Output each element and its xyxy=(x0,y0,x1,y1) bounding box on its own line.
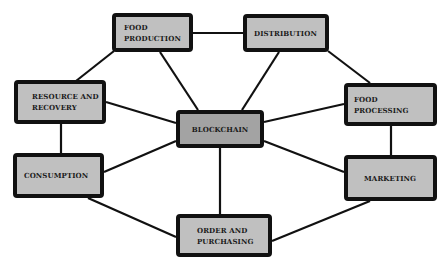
node-blockchain: BLOCKCHAIN xyxy=(176,110,264,148)
edge-food-production-to-blockchain xyxy=(160,52,198,110)
node-label: FOOD PRODUCTION xyxy=(124,22,181,44)
edge-distribution-to-blockchain xyxy=(242,52,279,110)
node-label: RESOURCE AND RECOVERY xyxy=(32,91,99,113)
node-consumption: CONSUMPTION xyxy=(13,153,104,198)
node-label: FOOD PROCESSING xyxy=(354,94,433,116)
blockchain-food-supply-diagram: FOOD PRODUCTIONDISTRIBUTIONRESOURCE AND … xyxy=(0,0,447,269)
edge-consumption-to-order-purchasing xyxy=(88,198,176,237)
node-order-purchasing: ORDER AND PURCHASING xyxy=(176,214,272,257)
node-label: MARKETING xyxy=(364,173,416,184)
node-distribution: DISTRIBUTION xyxy=(243,14,329,52)
edge-distribution-to-food-processing xyxy=(328,51,370,83)
node-label: ORDER AND PURCHASING xyxy=(197,225,254,247)
node-label: BLOCKCHAIN xyxy=(192,124,249,135)
edge-food-processing-to-blockchain xyxy=(264,104,344,122)
node-label: CONSUMPTION xyxy=(24,170,88,181)
node-food-processing: FOOD PROCESSING xyxy=(344,83,437,126)
node-marketing: MARKETING xyxy=(344,155,437,201)
edge-resource-recovery-to-blockchain xyxy=(106,102,176,123)
edge-food-production-to-resource-recovery xyxy=(76,51,114,81)
edge-marketing-to-order-purchasing xyxy=(272,201,370,241)
node-label: DISTRIBUTION xyxy=(254,28,317,39)
edge-marketing-to-blockchain xyxy=(264,141,344,172)
node-food-production: FOOD PRODUCTION xyxy=(112,13,193,52)
node-resource-recovery: RESOURCE AND RECOVERY xyxy=(14,80,106,124)
edge-consumption-to-blockchain xyxy=(104,141,176,172)
